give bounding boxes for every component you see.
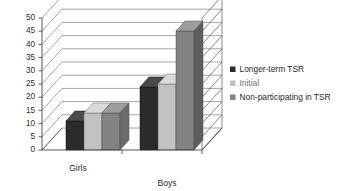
y-axis-ticks — [39, 18, 43, 150]
y-tick-label: 20 — [26, 92, 36, 101]
y-tick-label: 15 — [26, 106, 36, 115]
y-axis-tick-labels: 50 45 40 35 30 25 20 15 10 5 0 — [26, 13, 36, 154]
legend-label-initial: Initial — [240, 78, 260, 88]
legend-swatch-non-participating-in-tsr — [230, 95, 236, 101]
legend-label-longer-term-tsr: Longer-term TSR — [240, 64, 305, 74]
y-tick-label: 40 — [26, 40, 36, 49]
y-tick-label: 30 — [26, 66, 36, 75]
chart-container: 50 45 40 35 30 25 20 15 10 5 0 Girls Boy… — [0, 0, 352, 191]
x-category-label-girls: Girls — [69, 163, 87, 173]
y-tick-label: 10 — [26, 119, 36, 128]
legend-swatch-longer-term-tsr — [230, 67, 236, 73]
x-axis-ticks — [122, 150, 202, 154]
x-category-label-boys: Boys — [157, 178, 176, 188]
chart-legend: Longer-term TSR Initial Non-participatin… — [230, 64, 331, 102]
bar-girls-non-participating-in-tsr — [102, 103, 129, 150]
y-tick-label: 50 — [26, 13, 36, 22]
y-tick-label: 35 — [26, 53, 36, 62]
column-chart-3d: 50 45 40 35 30 25 20 15 10 5 0 Girls Boy… — [0, 0, 352, 191]
bar-boys-non-participating-in-tsr — [176, 21, 203, 150]
y-tick-label: 5 — [30, 132, 35, 141]
y-tick-label: 0 — [30, 145, 35, 154]
plot-left-wall — [42, 0, 62, 150]
legend-swatch-initial — [230, 81, 236, 87]
x-axis-category-labels: Girls Boys — [69, 163, 176, 188]
y-tick-label: 45 — [26, 26, 36, 35]
legend-label-non-participating-in-tsr: Non-participating in TSR — [240, 92, 331, 102]
y-tick-label: 25 — [26, 79, 36, 88]
